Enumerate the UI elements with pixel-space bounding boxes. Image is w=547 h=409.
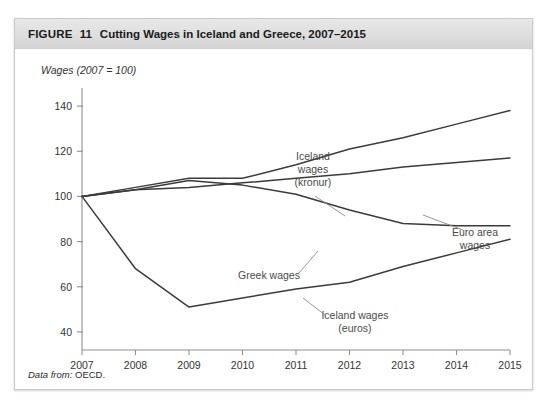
figure-title: Cutting Wages in Iceland and Greece, 200… (100, 28, 366, 40)
annotation-leader-line (303, 298, 325, 315)
source-note: Data from: OECD. (28, 369, 105, 380)
x-tick-label: 2009 (177, 359, 201, 371)
y-tick-label: 60 (60, 281, 72, 293)
line-chart: Wages (2007 = 100) 406080100120140 20072… (15, 50, 532, 390)
series-annotation-label: Greek wages (238, 269, 300, 281)
x-tick-label: 2014 (445, 359, 469, 371)
figure-header: FIGURE 11 Cutting Wages in Iceland and G… (15, 19, 532, 49)
series-annotation-label: Iceland wages(euros) (321, 309, 388, 334)
y-tick-label: 100 (54, 190, 72, 202)
annotation-leader-line (315, 196, 345, 216)
source-value: OECD. (75, 369, 105, 380)
series-line (82, 196, 510, 307)
y-tick-label: 120 (54, 145, 72, 157)
figure-caption-word: FIGURE (28, 28, 73, 40)
x-tick-label: 2015 (498, 359, 522, 371)
y-tick-label: 80 (60, 236, 72, 248)
x-tick-label: 2011 (285, 359, 308, 371)
series-annotations: Icelandwages(kronur)Euro areawagesGreek … (238, 150, 498, 334)
figure-container: FIGURE 11 Cutting Wages in Iceland and G… (14, 18, 533, 390)
x-tick-label: 2010 (231, 359, 255, 371)
x-tick-label: 2012 (338, 359, 362, 371)
x-tick-label: 2013 (391, 359, 415, 371)
y-axis-title: Wages (2007 = 100) (41, 64, 136, 76)
annotation-leader-line (299, 251, 318, 273)
x-tick-label: 2008 (124, 359, 148, 371)
source-label: Data from: (28, 369, 72, 380)
y-axis-ticks: 406080100120140 (54, 100, 83, 338)
y-tick-label: 40 (60, 326, 72, 338)
annotation-leader-line (423, 215, 463, 230)
series-annotation-label: Icelandwages(kronur) (295, 150, 332, 188)
chart-plot-area: Wages (2007 = 100) 406080100120140 20072… (15, 50, 532, 390)
x-axis-ticks: 200720082009201020112012201320142015 (70, 350, 522, 371)
y-tick-label: 140 (54, 100, 72, 112)
figure-number: 11 (80, 28, 92, 40)
series-annotation-label: Euro areawages (452, 226, 498, 251)
